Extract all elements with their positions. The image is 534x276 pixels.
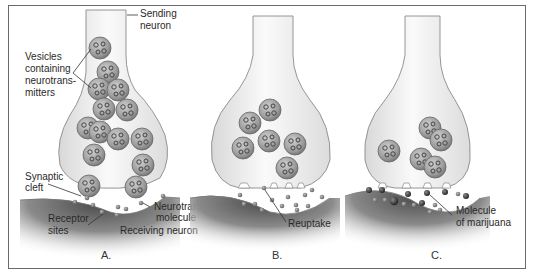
panel-label-a: A. [101,249,111,261]
panel-label-c: C. [431,249,442,261]
label-receiving-neuron: Receiving neuron [120,225,198,236]
label-vesicles: Vesiclescontainingneurotrans-mitters [25,51,76,98]
synapse-diagram: Sendingneuron Vesiclescontainingneurotra… [0,0,534,276]
label-sending-neuron: Sendingneuron [140,8,177,31]
label-synaptic-cleft: Synapticcleft [25,171,63,193]
panel-b: Reuptake B. [190,16,340,261]
label-reuptake: Reuptake [288,218,331,229]
panel-c: Moleculeof marijuana C. [345,16,511,261]
label-marijuana-molecule: Moleculeof marijuana [456,205,511,228]
panel-label-b: B. [272,249,282,261]
